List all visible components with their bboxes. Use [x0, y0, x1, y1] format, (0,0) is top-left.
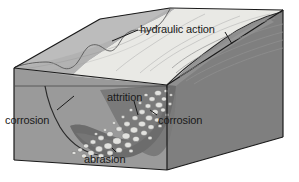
diagram-canvas: hydraulic action attrition corrosion cor… [0, 0, 299, 182]
label-abrasion: abrasion [84, 153, 125, 165]
erosion-block-diagram: hydraulic action attrition corrosion cor… [0, 0, 299, 182]
label-attrition: attrition [107, 91, 142, 103]
label-corrosion-right: corrosion [158, 114, 202, 126]
label-hydraulic-action: hydraulic action [140, 23, 215, 35]
label-corrosion-left: corrosion [5, 114, 49, 126]
